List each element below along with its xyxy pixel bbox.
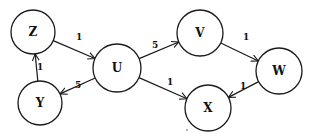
node-label: U xyxy=(112,61,123,75)
edge-u-to-x: 1 xyxy=(139,77,187,99)
arrow-line xyxy=(221,43,259,61)
edge-v-to-w: 1 xyxy=(221,32,259,61)
stray-dot xyxy=(186,129,188,131)
arrow-line xyxy=(139,42,179,59)
edge-u-to-v: 5 xyxy=(139,40,179,59)
node-w: W xyxy=(256,48,302,94)
node-x: X xyxy=(185,85,231,131)
node-label: Y xyxy=(35,96,45,110)
node-v: V xyxy=(177,10,223,56)
node-z: Z xyxy=(11,10,55,54)
node-y: Y xyxy=(18,81,62,125)
edge-weight-label: 5 xyxy=(75,80,81,90)
node-label: V xyxy=(194,26,205,40)
edge-w-to-x: 1 xyxy=(228,81,258,97)
edge-weight-label: 5 xyxy=(152,40,158,50)
edge-weight-label: 1 xyxy=(76,32,82,42)
edge-y-to-z: 1 xyxy=(35,54,43,81)
edge-weight-label: 1 xyxy=(243,32,249,42)
node-label: X xyxy=(203,101,213,115)
graph-diagram: 1515111 ZYUVWX xyxy=(0,0,313,139)
node-u: U xyxy=(93,44,141,92)
graph-canvas: 1515111 ZYUVWX xyxy=(0,0,313,139)
arrow-line xyxy=(139,78,187,99)
edge-u-to-y: 5 xyxy=(60,78,95,94)
node-label: Z xyxy=(29,25,38,39)
edge-z-to-u: 1 xyxy=(53,32,95,59)
arrow-line xyxy=(53,41,95,59)
edge-weight-label: 1 xyxy=(240,81,246,91)
node-label: W xyxy=(271,64,286,78)
edge-weight-label: 1 xyxy=(167,77,173,87)
edge-weight-label: 1 xyxy=(37,62,43,72)
